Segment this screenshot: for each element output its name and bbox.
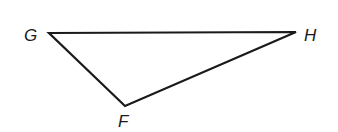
- vertex-label-g: G: [24, 26, 37, 45]
- vertex-label-h: H: [304, 26, 317, 45]
- triangle-fgh: [49, 32, 296, 106]
- triangle-diagram: G H F: [0, 0, 338, 132]
- vertex-label-f: F: [118, 112, 130, 131]
